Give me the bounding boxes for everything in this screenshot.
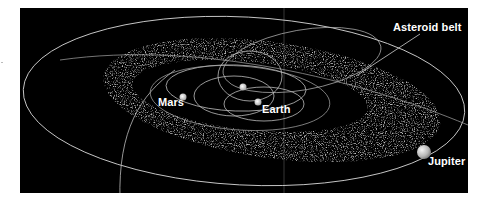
sun-icon: [240, 84, 247, 91]
mars-label: Mars: [158, 96, 184, 108]
earth-planet-icon: [255, 99, 262, 106]
asteroid-belt-label: Asteroid belt: [393, 21, 462, 33]
earth-label: Earth: [262, 103, 291, 115]
jupiter-label: Jupiter: [428, 155, 465, 167]
